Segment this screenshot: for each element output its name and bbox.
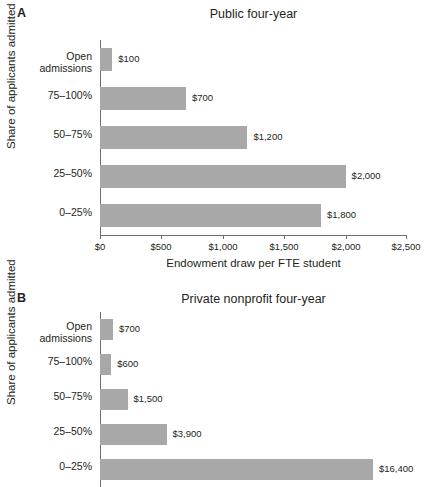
category-label: 25–50%: [12, 425, 100, 437]
category-label: 75–100%: [12, 89, 100, 101]
x-tick-label: $500: [150, 241, 171, 252]
panel-a-plot-area: Open admissions $100 75–100% $700 50–75%…: [100, 40, 407, 235]
category-label: 50–75%: [12, 390, 100, 402]
bar: [100, 459, 373, 480]
bar-row: 25–50% $3,900: [100, 417, 407, 452]
category-label: 50–75%: [12, 128, 100, 140]
bar-row: 50–75% $1,200: [100, 118, 407, 157]
panel-a-x-axis-title: Endowment draw per FTE student: [100, 257, 407, 269]
bar-row: Open admissions $100: [100, 40, 407, 79]
panel-public-four-year: A Public four-year Share of applicants a…: [0, 0, 444, 285]
bar-row: 75–100% $600: [100, 347, 407, 382]
figure-root: A Public four-year Share of applicants a…: [0, 0, 444, 487]
bar: [100, 354, 111, 375]
bar-value-label: $1,800: [327, 209, 356, 220]
bar-value-label: $1,200: [253, 131, 282, 142]
bar-row: 75–100% $700: [100, 79, 407, 118]
bar-value-label: $700: [192, 92, 213, 103]
category-label: Open admissions: [12, 320, 100, 344]
x-tick: [284, 235, 285, 239]
bar-value-label: $100: [118, 53, 139, 64]
bar-row: 0–25% $1,800: [100, 196, 407, 235]
panel-b-letter: B: [17, 291, 26, 305]
x-tick: [161, 235, 162, 239]
bar-row: Open admissions $700: [100, 312, 407, 347]
category-label: 0–25%: [12, 460, 100, 472]
bar: [100, 204, 321, 227]
category-label: 25–50%: [12, 167, 100, 179]
x-tick-label: $1,000: [208, 241, 237, 252]
bar-row: 50–75% $1,500: [100, 382, 407, 417]
bar-value-label: $600: [117, 358, 138, 369]
x-tick-label: $1,500: [269, 241, 298, 252]
bar-value-label: $2,000: [352, 170, 381, 181]
panel-b-title: Private nonprofit four-year: [100, 292, 407, 306]
bar: [100, 126, 247, 149]
x-tick-label: $2,000: [331, 241, 360, 252]
bar-value-label: $1,500: [134, 393, 163, 404]
category-label: Open admissions: [12, 50, 100, 74]
bar-value-label: $3,900: [173, 428, 202, 439]
panel-private-nonprofit-four-year: B Private nonprofit four-year Share of a…: [0, 285, 444, 487]
category-label: 0–25%: [12, 206, 100, 218]
x-tick: [346, 235, 347, 239]
bar-row: 25–50% $2,000: [100, 157, 407, 196]
x-tick: [223, 235, 224, 239]
x-tick-label: $2,500: [391, 241, 420, 252]
bar-row: 0–25% $16,400: [100, 452, 407, 487]
panel-b-plot-area: Open admissions $700 75–100% $600 50–75%…: [100, 312, 407, 487]
x-tick-label: $0: [95, 241, 106, 252]
panel-a-title: Public four-year: [100, 7, 407, 21]
bar: [100, 48, 112, 71]
bar-value-label: $16,400: [379, 463, 413, 474]
bar: [100, 389, 128, 410]
bar: [100, 165, 346, 188]
panel-a-letter: A: [17, 6, 26, 20]
bar: [100, 319, 113, 340]
x-tick: [406, 235, 407, 239]
bar-value-label: $700: [119, 323, 140, 334]
x-tick: [100, 235, 101, 239]
category-label: 75–100%: [12, 355, 100, 367]
bar: [100, 87, 186, 110]
bar: [100, 424, 167, 445]
